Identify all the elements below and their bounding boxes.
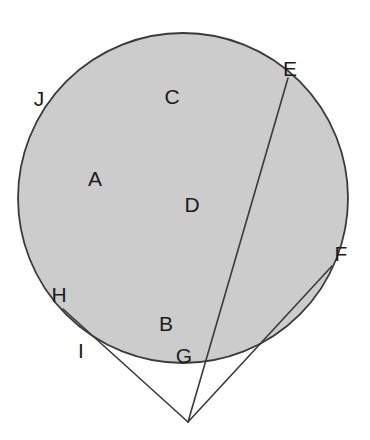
- label-H: H: [51, 283, 66, 306]
- geometry-figure: A B C D E F G H I J: [0, 0, 370, 440]
- label-C: C: [164, 85, 179, 108]
- label-A: A: [88, 167, 102, 190]
- label-D: D: [184, 193, 199, 216]
- label-B: B: [159, 312, 173, 335]
- label-J: J: [34, 87, 45, 110]
- label-F: F: [335, 242, 348, 265]
- label-I: I: [78, 339, 84, 362]
- label-E: E: [283, 57, 297, 80]
- geometry-canvas: A B C D E F G H I J: [0, 0, 370, 440]
- label-G: G: [176, 344, 192, 367]
